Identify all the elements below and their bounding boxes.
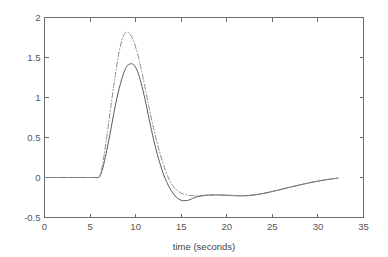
x-tick-label: 30	[313, 221, 324, 232]
chart-figure: 05101520253035 -0.500.511.52 time (secon…	[0, 0, 388, 257]
y-tick-label: 2	[35, 12, 40, 23]
x-tick-label: 0	[42, 221, 47, 232]
x-tick-label: 20	[221, 221, 232, 232]
x-axis-label: time (seconds)	[173, 241, 235, 252]
x-tick-label: 25	[267, 221, 278, 232]
y-tick-label: 0	[35, 172, 40, 183]
x-tick-label: 15	[176, 221, 187, 232]
line-chart: 05101520253035 -0.500.511.52 time (secon…	[0, 0, 388, 257]
y-tick-label: 0.5	[27, 132, 40, 143]
x-tick-label: 35	[358, 221, 369, 232]
y-tick-label: 1	[35, 92, 40, 103]
plot-background	[0, 0, 388, 257]
x-tick-label: 5	[87, 221, 92, 232]
x-tick-label: 10	[130, 221, 141, 232]
y-tick-label: 1.5	[27, 52, 40, 63]
y-tick-label: -0.5	[24, 212, 40, 223]
